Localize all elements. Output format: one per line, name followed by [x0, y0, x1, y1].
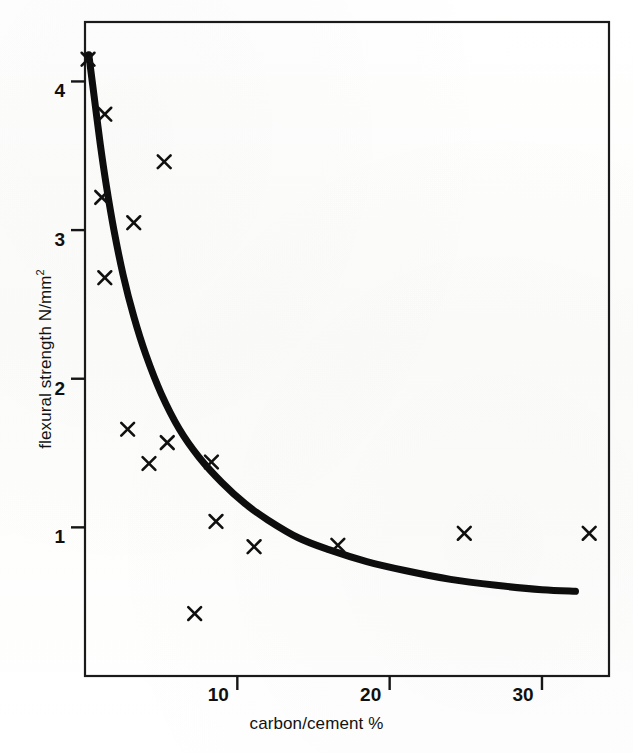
data-point — [121, 423, 134, 436]
x-tick-label: 10 — [201, 684, 235, 706]
data-point — [458, 527, 471, 540]
y-tick-label: 4 — [39, 80, 65, 102]
data-point — [161, 436, 174, 449]
x-tick-label: 20 — [354, 684, 388, 706]
fitted-curve — [89, 55, 576, 592]
data-point — [158, 155, 171, 168]
figure-panel: flexural strength N/mm2 carbon/cement % … — [0, 0, 633, 753]
y-tick-label: 1 — [39, 526, 65, 548]
data-point — [248, 540, 261, 553]
x-axis-ticks — [237, 676, 542, 690]
scatter-markers — [82, 53, 596, 620]
y-axis-title-superscript: 2 — [34, 269, 46, 275]
y-tick-label: 2 — [39, 378, 65, 400]
y-axis-title-text: flexural strength N/mm2 — [36, 269, 55, 448]
chart-plot-area — [0, 0, 633, 753]
y-tick-label: 3 — [39, 229, 65, 251]
data-point — [583, 527, 596, 540]
y-axis-ticks — [71, 81, 85, 527]
x-axis-title: carbon/cement % — [0, 714, 633, 734]
data-point — [98, 108, 111, 121]
x-tick-label: 30 — [506, 684, 540, 706]
data-point — [143, 457, 156, 470]
y-axis-title: flexural strength N/mm2 — [36, 229, 56, 489]
data-point — [98, 271, 111, 284]
data-point — [188, 607, 201, 620]
data-point — [127, 216, 140, 229]
plot-frame — [85, 22, 609, 676]
data-point — [210, 515, 223, 528]
